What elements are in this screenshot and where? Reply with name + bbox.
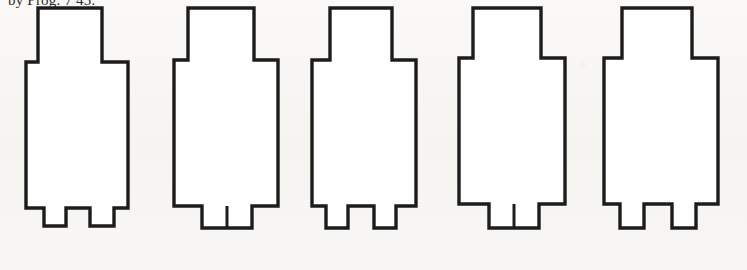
floorplan-outline-3 [298, 0, 432, 270]
floorplan-row [0, 0, 747, 270]
floorplan-outline-2 [158, 0, 294, 270]
floorplan-outline-5 [582, 0, 732, 270]
figure-page: by Prog. 7 45. [0, 0, 747, 270]
outline-path-4 [459, 8, 565, 228]
outline-path-2 [174, 8, 278, 228]
floorplan-outline-1 [18, 0, 148, 270]
outline-path-5 [604, 8, 718, 228]
floorplan-outline-4 [437, 0, 577, 270]
outline-path-1 [26, 8, 128, 226]
outline-path-3 [312, 8, 416, 228]
